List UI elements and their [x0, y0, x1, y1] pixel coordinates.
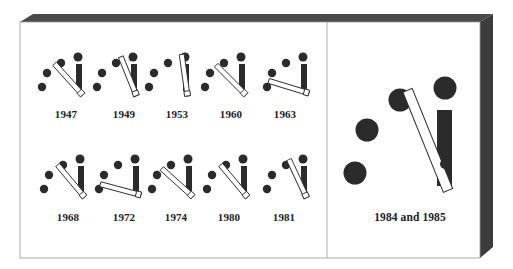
- dot-icon: [268, 171, 276, 179]
- box-right-side: [480, 14, 493, 258]
- dot-icon: [43, 69, 51, 77]
- dot-icon: [38, 83, 46, 91]
- dot-icon: [434, 77, 457, 100]
- dot-icon: [263, 185, 271, 193]
- vertical-bar: [301, 64, 307, 91]
- box-top-bevel: [20, 14, 493, 22]
- dot-icon: [150, 69, 158, 77]
- year-label-1972: 1972: [113, 211, 135, 223]
- dot-icon: [239, 155, 248, 164]
- dot-icon: [93, 83, 101, 91]
- dot-icon: [131, 155, 140, 164]
- dot-icon: [299, 53, 308, 62]
- dot-icon: [129, 53, 138, 62]
- dot-icon: [356, 119, 379, 142]
- dot-icon: [40, 185, 48, 193]
- dot-icon: [76, 155, 85, 164]
- dot-icon: [206, 69, 214, 77]
- vertical-bar: [133, 166, 139, 193]
- dot-icon: [145, 83, 153, 91]
- dot-icon: [237, 53, 246, 62]
- dot-icon: [201, 83, 209, 91]
- year-label-1981: 1981: [273, 211, 295, 223]
- dot-icon: [299, 155, 308, 164]
- dot-icon: [282, 59, 290, 67]
- year-label-1949: 1949: [113, 108, 135, 120]
- year-label-1953: 1953: [166, 108, 188, 120]
- year-label-1968: 1968: [57, 211, 79, 223]
- dot-icon: [148, 185, 156, 193]
- dot-icon: [208, 171, 216, 179]
- dot-icon: [203, 185, 211, 193]
- clock-evolution-figure: [0, 0, 513, 269]
- year-label-1974: 1974: [165, 211, 187, 223]
- dot-icon: [167, 161, 175, 169]
- year-label-1963: 1963: [274, 108, 296, 120]
- dot-icon: [100, 171, 108, 179]
- year-label-1984-1985: 1984 and 1985: [374, 211, 446, 223]
- dot-icon: [98, 69, 106, 77]
- dot-icon: [268, 69, 276, 77]
- year-label-1947: 1947: [55, 108, 77, 120]
- dot-icon: [114, 161, 122, 169]
- year-label-1960: 1960: [220, 108, 242, 120]
- dot-icon: [45, 171, 53, 179]
- figure-canvas: [0, 0, 513, 269]
- dot-icon: [344, 162, 367, 185]
- pivot-dot: [440, 159, 450, 169]
- dot-icon: [74, 53, 83, 62]
- year-label-1980: 1980: [218, 211, 240, 223]
- dot-icon: [153, 171, 161, 179]
- dot-icon: [164, 59, 172, 67]
- dot-icon: [184, 155, 193, 164]
